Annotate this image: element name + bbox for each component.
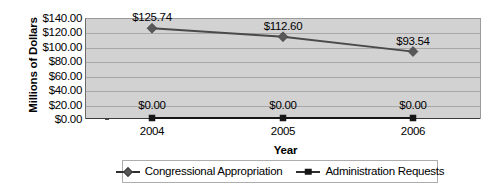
y-tick-mark [105, 119, 109, 120]
x-axis-title: Year [0, 144, 497, 156]
data-label-administration: $0.00 [138, 100, 165, 112]
legend-entry-administration-requests[interactable]: Administration Requests [296, 166, 444, 178]
data-label-congressional: $125.74 [132, 12, 171, 24]
line-chart: Millions of Dollars $140.00 $120.00 $100… [0, 0, 497, 187]
data-label-congressional: $93.54 [396, 36, 429, 48]
x-tick-label-2005: 2005 [271, 126, 295, 138]
x-axis-title-text: Year [274, 144, 298, 156]
legend-entry-congressional-appropriation[interactable]: Congressional Appropriation [116, 166, 283, 178]
data-label-administration: $0.00 [399, 100, 426, 112]
legend-swatch-square-icon [296, 166, 320, 177]
y-axis-tick-labels: $140.00 $120.00 $100.00 $80.00 $60.00 $4… [24, 18, 82, 119]
legend-label: Administration Requests [325, 166, 444, 178]
data-point-marker-diamond [278, 32, 288, 42]
x-tick-label-2004: 2004 [140, 126, 164, 138]
y-tick-label: $20.00 [24, 99, 82, 111]
y-tick-label: $80.00 [24, 56, 82, 68]
legend-swatch-diamond-icon [116, 166, 140, 177]
y-tick-label: $40.00 [24, 85, 82, 97]
data-point-marker-square [280, 115, 287, 122]
legend: Congressional Appropriation Administrati… [122, 160, 438, 183]
y-tick-label: $60.00 [24, 70, 82, 82]
data-point-marker-square [149, 115, 156, 122]
data-point-marker-square [410, 115, 417, 122]
legend-label: Congressional Appropriation [145, 166, 283, 178]
y-tick-label: $140.00 [24, 13, 82, 25]
data-point-marker-diamond [147, 23, 157, 33]
y-tick-label: $100.00 [24, 41, 82, 53]
data-label-administration: $0.00 [269, 100, 296, 112]
x-tick-label-2006: 2006 [401, 126, 425, 138]
y-tick-label: $0.00 [24, 114, 82, 126]
data-label-congressional: $112.60 [264, 21, 303, 33]
y-tick-label: $120.00 [24, 27, 82, 39]
data-point-marker-diamond [408, 47, 418, 57]
